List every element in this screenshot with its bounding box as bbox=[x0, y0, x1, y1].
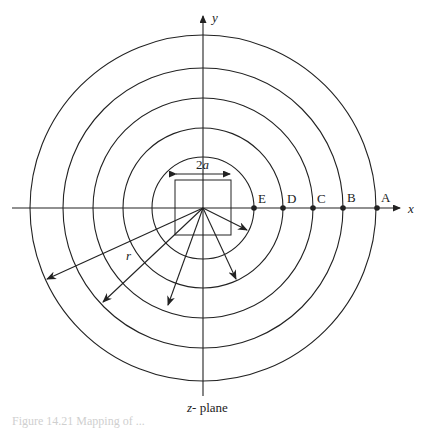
figure-caption: Figure 14.21 Mapping of ... bbox=[12, 414, 145, 428]
radial-arrow bbox=[203, 208, 247, 230]
point-c bbox=[310, 205, 316, 211]
point-d bbox=[280, 205, 286, 211]
point-e bbox=[251, 205, 257, 211]
plane-label: z- plane bbox=[186, 400, 228, 415]
point-b-label: B bbox=[347, 190, 356, 205]
point-c-label: C bbox=[317, 191, 326, 206]
radial-arrow bbox=[47, 208, 203, 279]
radial-arrow bbox=[103, 208, 203, 302]
width-label: 2a bbox=[196, 157, 210, 172]
radial-arrow bbox=[168, 208, 203, 305]
z-plane-diagram: 2a r E D C B A x y z- plane bbox=[0, 0, 426, 428]
point-a-label: A bbox=[381, 190, 391, 205]
point-a bbox=[374, 205, 380, 211]
y-axis-label: y bbox=[210, 10, 218, 25]
point-d-label: D bbox=[287, 191, 296, 206]
point-b bbox=[340, 205, 346, 211]
radius-label: r bbox=[126, 248, 132, 263]
point-e-label: E bbox=[258, 191, 266, 206]
x-axis-label: x bbox=[407, 201, 414, 216]
